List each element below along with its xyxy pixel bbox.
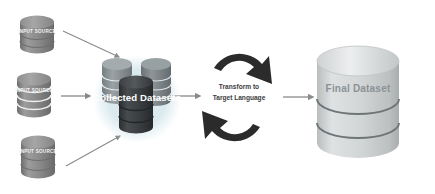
input-source-middle[interactable]: INPUT SOURCE [15, 73, 53, 118]
arrow-top-input-to-cluster [63, 31, 119, 57]
collected-datasets-label: Collected Datasets [93, 92, 181, 103]
input-source-bottom-lid [21, 136, 55, 149]
cluster-front-cylinder [119, 76, 153, 134]
collected-datasets[interactable]: Collected Datasets [93, 55, 181, 143]
input-source-top-label: INPUT SOURCE [18, 29, 56, 34]
final-dataset[interactable]: Final Dataset [317, 46, 399, 158]
pipeline-diagram: INPUT SOURCE INPUT SOURCE INPUT SOURCE [0, 0, 435, 194]
diagram-canvas: INPUT SOURCE INPUT SOURCE INPUT SOURCE [0, 0, 435, 194]
final-dataset-label: Final Dataset [326, 83, 391, 94]
input-source-bottom[interactable]: INPUT SOURCE [19, 136, 57, 179]
arrow-bottom-input-to-cluster [66, 136, 120, 166]
transform-label-line2: Target Language [213, 94, 266, 102]
transform-step[interactable]: Transform to Target Language [202, 54, 272, 141]
input-source-bottom-label: INPUT SOURCE [19, 149, 57, 154]
input-source-top-lid [20, 16, 54, 29]
input-source-middle-label: INPUT SOURCE [15, 88, 53, 93]
transform-label-line1: Transform to [219, 83, 259, 90]
input-source-middle-lid [17, 73, 51, 86]
input-source-top[interactable]: INPUT SOURCE [18, 16, 56, 54]
